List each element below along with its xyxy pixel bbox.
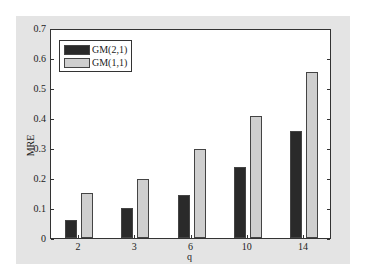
- y-tick-mark: [327, 89, 330, 90]
- x-axis-label: q: [187, 251, 192, 262]
- y-tick-mark: [327, 149, 330, 150]
- y-tick-label: 0.7: [26, 23, 46, 34]
- bar-gm21-q14: [290, 131, 302, 238]
- y-tick-mark: [51, 149, 54, 150]
- y-tick-mark: [51, 29, 54, 30]
- legend-item-gm21: GM(2,1): [64, 43, 127, 56]
- bar-gm11-q6: [194, 149, 206, 238]
- y-tick-mark: [327, 59, 330, 60]
- bar-gm11-q10: [250, 116, 262, 238]
- y-tick-mark: [51, 179, 54, 180]
- plot-area: GM(2,1) GM(1,1): [50, 29, 331, 239]
- x-tick-label: 10: [232, 241, 262, 252]
- bar-gm11-q3: [137, 179, 149, 238]
- x-tick-label: 3: [119, 241, 149, 252]
- y-tick-label: 0.1: [26, 203, 46, 214]
- y-tick-label: 0.5: [26, 83, 46, 94]
- legend: GM(2,1) GM(1,1): [59, 40, 132, 72]
- bar-gm21-q6: [178, 195, 190, 238]
- bar-gm11-q2: [81, 193, 93, 238]
- y-tick-mark: [51, 239, 54, 240]
- bar-gm21-q3: [121, 208, 133, 238]
- y-tick-mark: [51, 209, 54, 210]
- legend-swatch-gm21: [64, 45, 90, 55]
- y-tick-label: 0.4: [26, 113, 46, 124]
- x-tick-mark: [303, 235, 304, 238]
- y-tick-label: 0.2: [26, 173, 46, 184]
- y-tick-mark: [327, 119, 330, 120]
- y-tick-mark: [51, 119, 54, 120]
- bar-gm21-q10: [234, 167, 246, 238]
- legend-item-gm11: GM(1,1): [64, 56, 127, 69]
- y-tick-mark: [327, 209, 330, 210]
- x-tick-mark: [134, 235, 135, 238]
- y-axis-label: MRE: [25, 135, 36, 157]
- y-tick-mark: [327, 179, 330, 180]
- bar-gm11-q14: [306, 72, 318, 238]
- legend-label-gm21: GM(2,1): [92, 44, 127, 55]
- y-tick-label: 0.6: [26, 53, 46, 64]
- legend-swatch-gm11: [64, 58, 90, 68]
- x-tick-mark: [247, 235, 248, 238]
- y-tick-mark: [327, 239, 330, 240]
- legend-label-gm11: GM(1,1): [92, 57, 127, 68]
- bar-gm21-q2: [65, 220, 77, 238]
- y-tick-mark: [327, 29, 330, 30]
- x-tick-mark: [78, 235, 79, 238]
- y-tick-mark: [51, 59, 54, 60]
- x-tick-label: 2: [63, 241, 93, 252]
- x-tick-label: 14: [288, 241, 318, 252]
- y-tick-label: 0: [26, 233, 46, 244]
- y-tick-mark: [51, 89, 54, 90]
- x-tick-mark: [191, 235, 192, 238]
